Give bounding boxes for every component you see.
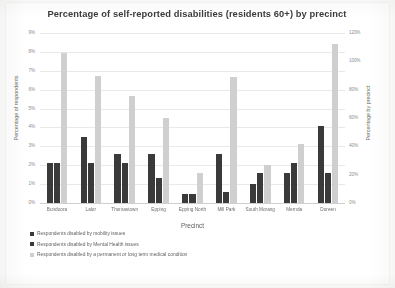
legend-item-medical-condition: Respondents disabled by a permanent or l…	[30, 252, 280, 258]
x-axis-tick-label: Doreen	[311, 207, 345, 213]
y-axis-tick-left: 9%	[19, 30, 35, 35]
bar-group	[277, 33, 311, 203]
y-axis-tick-left: 3%	[19, 143, 35, 148]
gridline	[40, 203, 345, 204]
bar	[148, 154, 154, 203]
y-axis-tick-left: 8%	[19, 49, 35, 54]
bar	[230, 77, 236, 203]
bar-group	[209, 33, 243, 203]
legend-label: Respondents disabled by mobility issues	[37, 231, 125, 237]
legend-swatch-icon	[30, 253, 34, 257]
legend-swatch-icon	[30, 232, 34, 236]
bar	[298, 144, 304, 204]
bar	[284, 173, 290, 203]
bar	[182, 194, 188, 203]
bar	[163, 118, 169, 203]
bar	[47, 163, 53, 203]
legend-swatch-icon	[30, 242, 34, 246]
bar-group	[142, 33, 176, 203]
y-axis-tick-left: 6%	[19, 87, 35, 92]
bar	[250, 184, 256, 203]
legend-item-mobility: Respondents disabled by mobility issues	[30, 231, 280, 237]
x-axis-tick-label: Bundoora	[40, 207, 74, 213]
bar-group	[243, 33, 277, 203]
y-axis-tick-right: 20%	[349, 172, 371, 177]
bar	[291, 163, 297, 203]
y-axis-tick-left: 5%	[19, 106, 35, 111]
plot-area: BundooraLalorThomastownEppingEpping Nort…	[40, 33, 345, 203]
scanned-chart-page: Percentage of self-reported disabilities…	[0, 0, 395, 288]
bar	[325, 173, 331, 203]
bar	[197, 173, 203, 203]
bar	[88, 163, 94, 203]
bar-group	[311, 33, 345, 203]
bar	[54, 163, 60, 203]
bar	[122, 163, 128, 203]
bar	[95, 76, 101, 204]
x-axis-tick-label: Lalor	[74, 207, 108, 213]
legend-label: Respondents disabled by a permanent or l…	[37, 252, 187, 258]
bar	[332, 44, 338, 203]
x-axis-title: Precinct	[40, 222, 345, 229]
y-axis-tick-right: 0%	[349, 200, 371, 205]
y-axis-tick-right: 100%	[349, 58, 371, 63]
y-axis-tick-left: 4%	[19, 124, 35, 129]
y-axis-tick-right: 120%	[349, 30, 371, 35]
x-axis-tick-label: Epping North	[176, 207, 210, 213]
bar	[223, 192, 229, 203]
x-axis-tick-label: South Morang	[243, 207, 277, 213]
bar	[114, 154, 120, 203]
x-axis-tick-label: Mill Park	[209, 207, 243, 213]
legend-item-mental-health: Respondents disabled by Mental Health is…	[30, 242, 280, 248]
legend-label: Respondents disabled by Mental Health is…	[37, 242, 139, 248]
bar-group	[108, 33, 142, 203]
y-axis-tick-left: 7%	[19, 68, 35, 73]
bar	[156, 178, 162, 203]
chart-title: Percentage of self-reported disabilities…	[38, 8, 356, 20]
bar	[61, 53, 67, 203]
x-axis-tick-label: Thomastown	[108, 207, 142, 213]
bar	[318, 126, 324, 203]
bar	[216, 154, 222, 203]
y-axis-tick-left: 1%	[19, 181, 35, 186]
y-axis-tick-left: 2%	[19, 162, 35, 167]
bar-group	[40, 33, 74, 203]
y-axis-tick-right: 60%	[349, 115, 371, 120]
bar	[81, 137, 87, 203]
y-axis-tick-right: 80%	[349, 87, 371, 92]
bar	[189, 194, 195, 203]
x-axis-tick-label: Epping	[142, 207, 176, 213]
y-axis-tick-right: 40%	[349, 143, 371, 148]
y-axis-title-right: Percentage by precinct	[365, 53, 371, 173]
bar	[257, 173, 263, 203]
chart-legend: Respondents disabled by mobility issues …	[30, 231, 280, 263]
bar	[129, 96, 135, 203]
bar-group	[176, 33, 210, 203]
y-axis-tick-left: 0%	[19, 200, 35, 205]
bar-group	[74, 33, 108, 203]
bar	[264, 165, 270, 203]
x-axis-tick-label: Mernda	[277, 207, 311, 213]
